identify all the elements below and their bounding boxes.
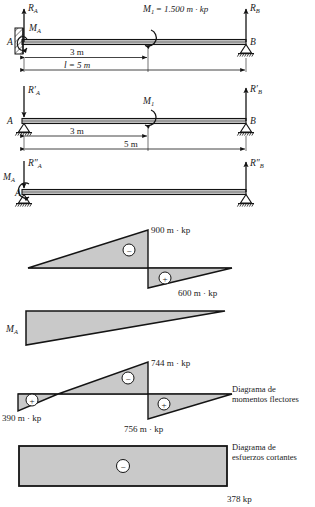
label-390-m-kp: 390 m · kp <box>2 413 42 423</box>
label-node-b-beam1: B <box>250 37 256 47</box>
label-node-a-beam1: A <box>6 37 13 47</box>
label-node-a-beam2: A <box>6 116 13 126</box>
sign-badge-positive-diagram-1: + <box>159 272 171 284</box>
svg-text:+: + <box>162 274 167 284</box>
caption-moment-diagram-line1: Diagrama de <box>232 384 276 394</box>
svg-text:−: − <box>126 246 131 256</box>
svg-text:+: + <box>161 400 166 410</box>
label-744-m-kp: 744 m · kp <box>151 358 191 368</box>
engineering-figure: RA MA A B M1= 1.500 m · kp RB 3 m l= 5 m <box>0 0 315 507</box>
sign-badge-negative-combined: − <box>122 372 134 384</box>
svg-text:+: + <box>29 396 34 406</box>
figure-svg: RA MA A B M1= 1.500 m · kp RB 3 m l= 5 m <box>0 0 315 507</box>
label-756-m-kp: 756 m · kp <box>124 424 164 434</box>
label-node-b-beam2: B <box>250 116 256 126</box>
label-600-m-kp: 600 m · kp <box>178 288 218 298</box>
beam-3-member <box>22 190 246 195</box>
svg-text:−: − <box>125 374 130 384</box>
label-900-m-kp: 900 m · kp <box>151 225 191 235</box>
label-378-kp: 378 kp <box>227 494 252 504</box>
caption-moment-diagram-line2: momentos flectores <box>232 394 299 404</box>
caption-shear-diagram-line2: esfuerzos cortantes <box>232 452 297 462</box>
label-dim-5m-beam2: 5 m <box>124 139 138 149</box>
label-node-a-beam3: A <box>14 188 21 198</box>
sign-badge-positive-left-combined: + <box>26 394 38 406</box>
svg-text:−: − <box>120 462 125 472</box>
sign-badge-positive-right-combined: + <box>158 398 170 410</box>
label-dim-3m-beam1: 3 m <box>70 47 84 57</box>
sign-badge-negative-diagram-1: − <box>123 244 135 256</box>
beam-2-member <box>22 119 246 124</box>
label-dim-3m-beam2: 3 m <box>70 126 84 136</box>
sign-badge-shear: − <box>117 460 130 473</box>
label-dim-5m-beam1: l= 5 m <box>64 60 91 70</box>
beam-1-member <box>22 40 246 45</box>
caption-shear-diagram-line1: Diagrama de <box>232 442 276 452</box>
